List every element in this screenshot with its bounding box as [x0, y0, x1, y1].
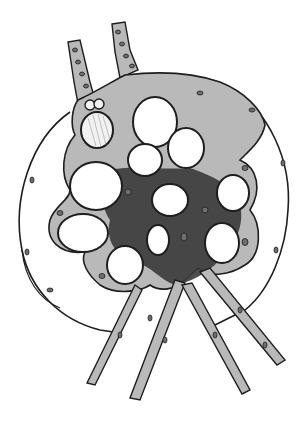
illustration-canvas [0, 0, 301, 425]
cell-cluster-illustration [0, 0, 301, 425]
